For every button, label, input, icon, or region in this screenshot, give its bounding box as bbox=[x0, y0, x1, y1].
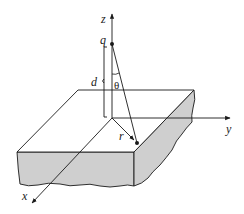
charge-label: q bbox=[100, 33, 106, 47]
charge-point bbox=[110, 42, 114, 46]
image-charge-diagram: z y x q d θ r bbox=[0, 0, 244, 214]
distance-label: d bbox=[91, 75, 98, 89]
z-axis-label: z bbox=[100, 12, 106, 26]
angle-label: θ bbox=[114, 79, 119, 91]
radius-label: r bbox=[119, 129, 124, 143]
field-point bbox=[135, 141, 139, 145]
theta-arc bbox=[112, 73, 119, 74]
y-axis-label: y bbox=[225, 122, 232, 136]
x-axis-label: x bbox=[21, 189, 28, 203]
